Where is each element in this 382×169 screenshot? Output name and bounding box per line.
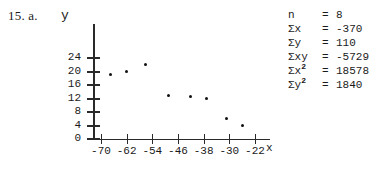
x-tick: [178, 134, 179, 144]
stat-value: -370: [336, 22, 362, 36]
x-axis-line: [93, 139, 270, 140]
stat-equals-sign: =: [322, 8, 336, 22]
y-axis-line: [93, 24, 95, 140]
stat-symbol: n: [288, 8, 322, 22]
data-point: [241, 124, 244, 127]
x-tick: [152, 134, 153, 144]
stat-symbol-exponent: 2: [301, 76, 306, 85]
stat-value: 110: [336, 36, 356, 50]
y-tick-label: 0: [59, 133, 81, 144]
stat-row: n=8: [288, 8, 369, 22]
y-tick: [87, 84, 100, 86]
data-point: [189, 95, 192, 98]
x-axis-label: x: [266, 142, 273, 154]
y-tick-label: 12: [59, 93, 81, 104]
figure-container: 15. a. y 24201612840 -70-62-54-46-38-30-…: [0, 0, 382, 169]
x-tick: [204, 134, 205, 144]
y-tick-label: 16: [59, 79, 81, 90]
stat-equals-sign: =: [322, 36, 336, 50]
stat-equals-sign: =: [322, 22, 336, 36]
y-tick: [87, 111, 100, 113]
stat-value: 18578: [336, 64, 369, 78]
stat-symbol: Σy2: [288, 78, 322, 92]
statistics-summary: n=8Σx=-370Σy=110Σxy=-5729Σx2=18578Σy2=18…: [288, 8, 369, 92]
data-point: [109, 73, 112, 76]
stat-row: Σy2=1840: [288, 78, 369, 92]
stat-value: 8: [336, 8, 343, 22]
y-tick-label: 24: [59, 52, 81, 63]
stat-value: -5729: [336, 50, 369, 64]
y-tick: [87, 71, 100, 73]
y-tick-label: 8: [59, 106, 81, 117]
data-point: [125, 70, 128, 73]
x-tick: [229, 134, 230, 144]
x-tick: [127, 134, 128, 144]
y-tick: [87, 138, 100, 140]
stat-symbol: Σx: [288, 22, 322, 36]
data-point: [144, 63, 147, 66]
data-point: [167, 94, 170, 97]
stat-equals-sign: =: [322, 64, 336, 78]
stat-value: 1840: [336, 78, 362, 92]
y-tick-label: 20: [59, 66, 81, 77]
x-tick: [101, 134, 102, 144]
stat-symbol: Σy: [288, 36, 322, 50]
y-tick: [87, 125, 100, 127]
data-point: [225, 117, 228, 120]
stat-row: Σx=-370: [288, 22, 369, 36]
stat-equals-sign: =: [322, 78, 336, 92]
x-tick: [255, 134, 256, 144]
data-point: [205, 97, 208, 100]
stat-equals-sign: =: [322, 50, 336, 64]
stat-row: Σy=110: [288, 36, 369, 50]
y-tick: [87, 98, 100, 100]
y-tick: [87, 57, 100, 59]
stat-symbol-exponent: 2: [301, 62, 306, 71]
y-tick-label: 4: [59, 120, 81, 131]
